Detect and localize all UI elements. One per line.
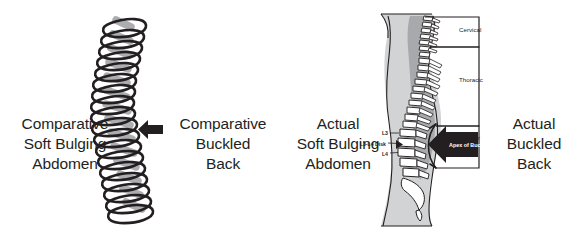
label-l4: L4: [382, 151, 388, 157]
label-thoracic: Thoracic: [459, 76, 483, 83]
label-cervical: Cervical: [459, 26, 481, 33]
illustration-canvas: L3 L3-L4 Disk L4 Cervical Thoracic Lumba…: [0, 0, 574, 238]
label-l3: L3: [382, 130, 388, 136]
label-l3-l4-disk: L3-L4 Disk: [360, 141, 386, 147]
arrow-left-icon-comparative: [138, 120, 163, 139]
coil-spring-icon: [91, 19, 153, 223]
lateral-spine-anatomy-icon: [381, 14, 442, 226]
label-apex-of-buckle: Apex of Buckle: [449, 142, 488, 148]
